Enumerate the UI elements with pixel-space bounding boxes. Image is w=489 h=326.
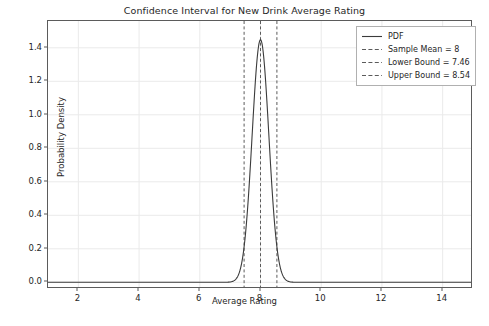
legend-line-swatch [361,45,383,54]
x-tick-mark [320,288,321,291]
legend-item: PDF [361,30,470,43]
chart-title: Confidence Interval for New Drink Averag… [0,5,489,16]
x-tick-mark [138,288,139,291]
x-tick-mark [380,288,381,291]
y-tick-label: 0.0 [28,276,42,286]
legend-item: Sample Mean = 8 [361,43,470,56]
legend-line-swatch [361,71,383,80]
y-tick-mark [44,214,47,215]
chart-figure: Confidence Interval for New Drink Averag… [0,0,489,326]
legend-label: Sample Mean = 8 [388,45,459,54]
y-tick-label: 0.4 [28,209,42,219]
x-tick-mark [198,288,199,291]
legend-label: Upper Bound = 8.54 [388,71,470,80]
x-tick-mark [259,288,260,291]
y-tick-label: 0.2 [28,243,42,253]
y-tick-label: 1.4 [28,42,42,52]
y-tick-mark [44,247,47,248]
x-axis-label: Average Rating [0,296,489,306]
legend-label: Lower Bound = 7.46 [388,58,470,67]
y-tick-mark [44,113,47,114]
y-tick-mark [44,46,47,47]
x-tick-mark [77,288,78,291]
y-tick-label: 0.6 [28,176,42,186]
legend-label: PDF [388,32,404,41]
y-tick-label: 0.8 [28,142,42,152]
legend-line-swatch [361,58,383,67]
legend-line-swatch [361,32,383,41]
y-tick-label: 1.2 [28,75,42,85]
y-tick-mark [44,281,47,282]
legend-item: Upper Bound = 8.54 [361,69,470,82]
y-tick-label: 1.0 [28,109,42,119]
legend-item: Lower Bound = 7.46 [361,56,470,69]
x-tick-mark [441,288,442,291]
y-tick-mark [44,180,47,181]
chart-legend: PDFSample Mean = 8Lower Bound = 7.46Uppe… [356,26,476,86]
y-tick-mark [44,80,47,81]
y-tick-mark [44,147,47,148]
y-axis-label: Probability Density [56,57,66,217]
